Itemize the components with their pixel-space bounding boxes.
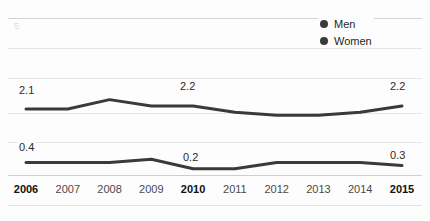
x-axis-tick-2012: 2012 [264, 183, 288, 195]
data-label-men-2010: 2.2 [179, 80, 196, 92]
x-axis-tick-2013: 2013 [306, 183, 330, 195]
chart-legend: Men Women [318, 18, 374, 47]
x-axis-tick-2010: 2010 [181, 183, 205, 195]
legend-item-label: Women [334, 35, 372, 47]
data-label-women-2010: 0.2 [182, 151, 199, 163]
legend-item-label: Men [334, 18, 355, 30]
x-axis-tick-2008: 2008 [97, 183, 121, 195]
series-line-men [26, 100, 402, 116]
x-axis-tick-2006: 2006 [14, 183, 38, 195]
line-chart: 5 Men Women 2.1 2.2 2.2 0.4 0.2 0.3 2006… [0, 0, 430, 221]
series-line-women [26, 159, 402, 168]
x-axis-tick-2011: 2011 [223, 183, 247, 195]
circle-marker-icon [320, 20, 328, 28]
x-axis-tick-2015: 2015 [390, 183, 414, 195]
legend-item-women[interactable]: Women [318, 35, 374, 47]
circle-marker-icon [320, 37, 328, 45]
data-label-men-2015: 2.2 [389, 80, 406, 92]
data-label-men-2006: 2.1 [18, 84, 35, 96]
bottom-rule [8, 205, 422, 206]
x-axis: 2006200720082009201020112012201320142015 [0, 183, 430, 201]
x-axis-tick-2007: 2007 [56, 183, 80, 195]
x-axis-tick-2009: 2009 [139, 183, 163, 195]
legend-item-men[interactable]: Men [318, 18, 374, 30]
data-label-women-2015: 0.3 [389, 149, 406, 161]
data-label-women-2006: 0.4 [18, 141, 35, 153]
x-axis-tick-2014: 2014 [348, 183, 372, 195]
